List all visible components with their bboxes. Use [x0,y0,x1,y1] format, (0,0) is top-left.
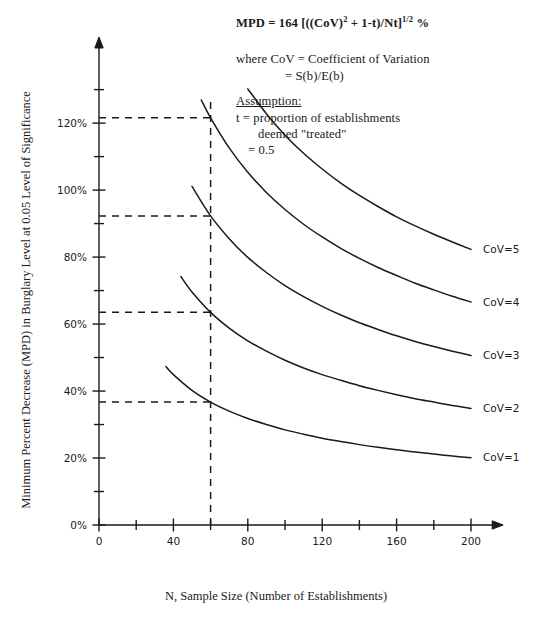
formula-note: MPD = 164 [((CoV)2 + 1-t)/Nt]1/2 % [236,14,429,31]
curve-label-cov-2: CoV=2 [483,402,519,414]
x-axis-title: N, Sample Size (Number of Establishments… [165,589,387,603]
y-tick-label: 60% [64,318,87,330]
curve-label-cov-3: CoV=3 [483,349,519,361]
x-tick-label: 160 [387,535,407,547]
x-tick-label: 80 [241,535,254,547]
x-tick-label: 200 [461,535,481,547]
cov-definition-line1: where CoV = Coefficient of Variation [236,52,430,67]
formula-lhs: MPD [236,16,265,30]
x-tick-label: 120 [312,535,332,547]
formula-exponent-half: 1/2 [402,14,413,24]
y-tick-label: 0% [70,519,87,531]
formula-rhs-a: 164 [((CoV) [279,16,343,30]
x-axis: 04080120160200 [96,519,504,548]
curve-cov-3 [192,186,471,355]
assumption-line-2: deemed "treated" [258,127,346,142]
curve-label-cov-5: CoV=5 [483,243,519,255]
assumption-line-3: = 0.5 [248,143,275,158]
y-tick-label: 120% [57,117,87,129]
curve-labels: CoV=1CoV=2CoV=3CoV=4CoV=5 [483,243,520,463]
formula-percent: % [416,16,429,30]
curve-cov-1 [166,367,471,458]
chart-figure: 0%20%40%60%80%100%120% 04080120160200 Co… [0,0,552,632]
x-tick-label: 0 [96,535,103,547]
curve-cov-2 [181,277,471,409]
assumption-line-1: t = proportion of establishments [236,111,400,126]
x-tick-label: 40 [167,535,180,547]
y-tick-label: 40% [64,385,87,397]
y-tick-label: 100% [57,184,87,196]
y-tick-label: 20% [64,452,87,464]
cov-definition-line2: = S(b)/E(b) [285,69,344,84]
curve-label-cov-4: CoV=4 [483,296,520,308]
assumption-heading: Assumption: [236,94,301,109]
y-axis-arrowhead [95,37,103,48]
reference-lines [99,100,211,525]
curve-series [166,89,471,458]
y-axis: 0%20%40%60%80%100%120% [57,37,106,531]
curve-label-cov-1: CoV=1 [483,451,519,463]
formula-equals: = [268,16,275,30]
y-axis-title: Minimum Percent Decrease (MPD) in Burgla… [19,91,33,509]
formula-rhs-b: + 1-t)/Nt] [348,16,402,30]
y-tick-label: 80% [64,251,87,263]
x-axis-arrowhead [492,521,503,529]
